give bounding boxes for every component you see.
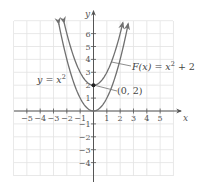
y-axis-label: y	[84, 9, 91, 19]
y-tick-label: 4	[85, 55, 90, 64]
x-tick-label: −4	[34, 114, 46, 123]
y-tick-label: 3	[85, 68, 90, 77]
x-tick-label: 2	[118, 114, 123, 123]
x-tick-label: −3	[48, 114, 60, 123]
y-tick-label: −4	[79, 159, 91, 168]
x-axis-label: x	[183, 113, 188, 123]
leader-point-label	[94, 85, 118, 91]
leader-f-label	[112, 62, 132, 66]
parabola-chart: −5−4−3−2−112345−4−3−2−1123456 x y y = x2…	[0, 0, 203, 186]
label-y-equals-x-squared: y = x2	[36, 73, 66, 85]
label-point-0-2: (0, 2)	[117, 85, 143, 96]
y-tick-label: 6	[85, 30, 90, 39]
y-tick-label: −1	[79, 120, 91, 129]
x-tick-label: −5	[21, 114, 33, 123]
point-0-2	[92, 83, 96, 87]
label-f-x: F(x) = x2 + 2	[131, 60, 195, 72]
y-tick-label: −2	[79, 133, 91, 142]
x-tick-label: 4	[144, 114, 149, 123]
y-tick-label: −3	[79, 146, 91, 155]
x-tick-label: 1	[104, 114, 109, 123]
x-tick-label: −2	[61, 114, 73, 123]
x-tick-label: 3	[131, 114, 136, 123]
axis-ticks: −5−4−3−2−112345−4−3−2−1123456	[21, 30, 163, 168]
x-tick-label: 5	[158, 114, 163, 123]
y-tick-label: 5	[85, 43, 90, 52]
y-tick-label: 1	[85, 94, 90, 103]
